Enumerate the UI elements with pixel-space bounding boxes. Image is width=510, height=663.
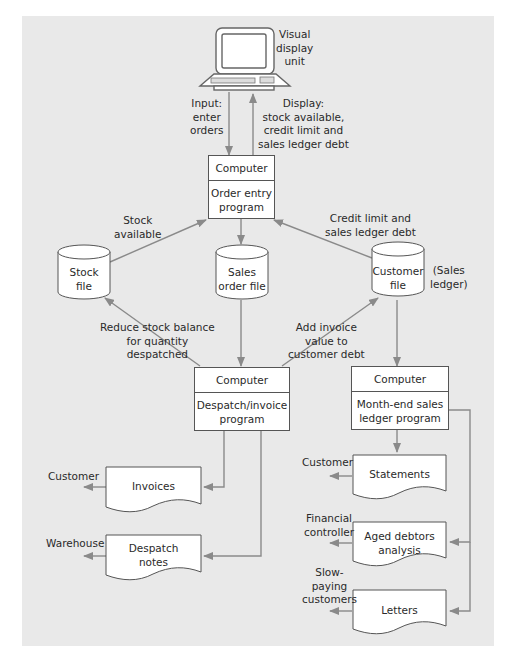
flow-label-stock-available: Stock available xyxy=(114,214,161,241)
month-end-ledger-process: Computer Month-end sales ledger program xyxy=(351,366,449,430)
stock-file-label: Stock file xyxy=(58,265,110,293)
flow-label-credit-limit: Credit limit and sales ledger debt xyxy=(325,212,416,239)
despatch-notes-label: Despatch notes xyxy=(106,541,201,569)
process-device: Computer xyxy=(195,368,289,393)
order-entry-process: Computer Order entry program xyxy=(208,155,275,219)
flow-label-add-invoice: Add invoice value to customer debt xyxy=(288,321,365,362)
aged-debtors-recipient: Financial controller xyxy=(304,512,354,539)
flow-label-reduce-stock: Reduce stock balance for quantity despat… xyxy=(100,321,215,362)
aged-debtors-label: Aged debtors analysis xyxy=(353,529,446,557)
flow-label-display: Display: stock available, credit limit a… xyxy=(258,97,349,151)
sales-order-file-label: Sales order file xyxy=(214,265,270,293)
sales-ledger-note: (Sales ledger) xyxy=(430,264,468,291)
letters-recipient: Slow- paying customers xyxy=(302,566,357,607)
letters-label: Letters xyxy=(353,603,446,617)
invoices-recipient: Customer xyxy=(48,470,99,484)
despatch-invoice-process: Computer Despatch/invoice program xyxy=(194,367,290,431)
statements-recipient: Customer xyxy=(302,456,353,470)
process-device: Computer xyxy=(352,367,448,392)
diagram-connectors xyxy=(0,0,510,663)
process-device: Computer xyxy=(209,156,274,181)
despatch-notes-recipient: Warehouse xyxy=(46,537,104,551)
customer-file-label: Customer file xyxy=(370,264,426,292)
statements-label: Statements xyxy=(353,467,446,481)
invoices-label: Invoices xyxy=(106,479,201,493)
vdu-label: Visual display unit xyxy=(276,28,313,69)
flow-label-input: Input: enter orders xyxy=(190,97,223,138)
